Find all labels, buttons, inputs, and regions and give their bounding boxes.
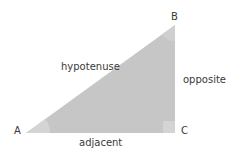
right-angle-mark xyxy=(163,121,175,133)
angle-a-mark xyxy=(26,119,50,133)
triangle xyxy=(26,25,175,133)
side-label-hypotenuse: hypotenuse xyxy=(61,61,120,73)
vertex-label-c: C xyxy=(181,125,188,137)
vertex-label-a: A xyxy=(14,125,21,137)
side-label-opposite: opposite xyxy=(183,74,226,86)
vertex-label-b: B xyxy=(171,11,178,23)
side-label-adjacent: adjacent xyxy=(79,137,122,149)
